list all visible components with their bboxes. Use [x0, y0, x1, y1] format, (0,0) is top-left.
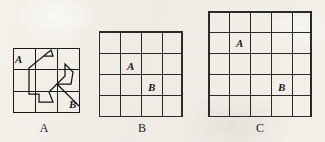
figure-b-caption: B — [128, 122, 156, 134]
figure-c-cell-label-A: A — [236, 38, 243, 49]
figure-a-caption: A — [30, 122, 58, 134]
figure-c-caption: C — [246, 122, 274, 134]
figure-a-point-label-A: A — [15, 54, 22, 65]
figure-b-grid — [99, 31, 183, 117]
figure-a-point-label-B: B — [69, 99, 76, 110]
figure-b-cell-label-B: B — [148, 82, 155, 93]
grid-lines-c — [209, 12, 312, 117]
grid-lines-b — [100, 32, 183, 117]
figure-c-grid — [208, 11, 312, 117]
figure-c — [208, 11, 312, 117]
figure-b-cell-label-A: A — [127, 61, 134, 72]
figure-c-cell-label-B: B — [278, 82, 285, 93]
figure-b — [99, 31, 183, 117]
